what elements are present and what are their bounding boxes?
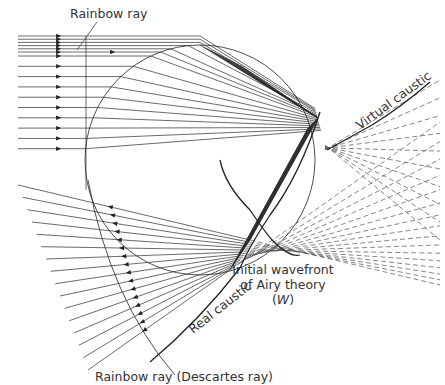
ray-arrow-icon [126, 270, 131, 274]
emergent-ray [37, 234, 245, 248]
ray-arrow-icon [56, 54, 61, 58]
virtual-ray-extension [325, 146, 440, 204]
emergent-ray [51, 254, 241, 271]
ray-arrow-icon [119, 246, 124, 251]
emergent-wavefront-arc [88, 180, 175, 375]
virtual-ray-extensions [230, 80, 440, 285]
ray-arrow-icon [128, 278, 133, 282]
descartes-ray-label: Rainbow ray (Descartes ray) [95, 369, 273, 384]
virtual-ray-extension [231, 142, 440, 268]
ray-arrow-icon [56, 64, 61, 68]
emergent-ray [65, 260, 237, 308]
airy-rainbow-diagram: Rainbow ray Virtual caustic Real caustic… [0, 0, 445, 385]
ray-arrow-icon [56, 74, 61, 78]
ray-arrow-icon [56, 126, 61, 130]
ray-arrow-icon [112, 222, 117, 226]
virtual-ray-extension [235, 190, 440, 262]
ray-arrow-icon [56, 147, 61, 151]
ray-arrow-icon [56, 50, 61, 54]
virtual-ray-extension [234, 175, 440, 264]
wavefront-label-line1: Initial wavefront [232, 262, 333, 277]
rainbow-ray-label: Rainbow ray [70, 6, 148, 21]
ray-arrow-icon [140, 319, 146, 324]
incoming-rays [18, 34, 200, 151]
internal-rays [86, 36, 321, 149]
internal-ray [161, 52, 318, 116]
virtual-ray-extension [325, 116, 440, 149]
wavefront-label-line2: of Airy theory [240, 277, 326, 292]
internal-ray [171, 49, 317, 115]
emergent-ray [32, 222, 246, 246]
emergent-ray [46, 252, 242, 259]
ray-arrow-icon [56, 136, 61, 140]
ray-arrow-icon [56, 85, 61, 89]
virtual-ray-extension [325, 145, 440, 240]
ray-arrow-icon [133, 294, 139, 298]
ray-arrow-icon [110, 213, 116, 217]
internal-reflected-ray [230, 128, 308, 270]
internal-ray [86, 130, 321, 148]
virtual-ray-extension [325, 146, 440, 223]
ray-arrow-icon [110, 50, 115, 54]
emergent-rays [18, 118, 318, 370]
emergent-ray [41, 247, 243, 250]
ray-arrow-icon [56, 105, 61, 109]
internal-ray [90, 128, 321, 129]
internal-ray [200, 39, 315, 110]
ray-arrow-icon [130, 286, 136, 290]
internal-ray [87, 129, 321, 139]
wavefront-label-line3: (W) [272, 292, 294, 307]
ray-arrow-icon [56, 116, 61, 120]
virtual-caustic-label: Virtual caustic [353, 68, 434, 133]
converging-ray [240, 65, 318, 118]
emergent-ray [18, 185, 250, 240]
ray-arrow-icon [114, 230, 119, 234]
virtual-ray-extension [325, 147, 440, 187]
emergent-ray [27, 210, 247, 244]
real-caustic-lower [150, 268, 240, 362]
ray-arrow-icon [121, 254, 126, 259]
ray-arrow-icon [56, 95, 61, 99]
airy-wavefront-upper [220, 160, 250, 210]
ray-arrow-icon [108, 205, 114, 209]
